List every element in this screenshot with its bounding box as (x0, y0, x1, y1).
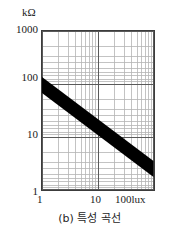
y-tick-label-10: 10 (0, 129, 38, 140)
y-tick-label-100: 100 (0, 72, 38, 83)
y-tick-label-1000: 1000 (0, 24, 38, 35)
figure-caption: (b) 특성 곡선 (0, 212, 179, 225)
x-tick-label-10: 10 (90, 193, 101, 205)
photoresistor-characteristic-figure: kΩ 1000 100 10 1 (0, 0, 179, 234)
plot-area (41, 30, 155, 191)
x-tick-label-100lux: 100lux (115, 193, 146, 205)
x-axis-tick-labels: 1 10 100lux (0, 193, 179, 209)
x-tick-label-1: 1 (37, 193, 43, 205)
log-log-grid-and-band (42, 31, 154, 190)
